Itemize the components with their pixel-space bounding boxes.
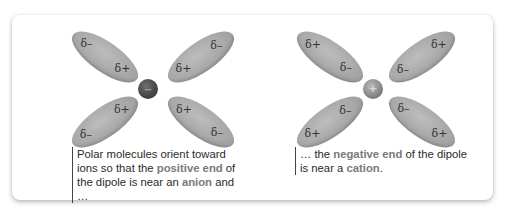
caption-highlight-anion: anion [182,176,212,188]
dipole-outer-charge: δ– [211,127,223,138]
dipole-inner-charge: δ+ [176,104,192,115]
dipole-inner-charge: δ+ [115,63,131,74]
anion-charge: – [144,81,151,96]
anion-icon: – [138,79,158,99]
dipole-inner-charge: δ– [339,105,351,116]
dipole-top-left: δ– δ+ [64,22,145,91]
cation-charge: + [369,81,377,96]
anion-caption: Polar molecules orient toward ions so th… [72,147,247,203]
caption-text: . [380,162,383,174]
dipole-inner-charge: δ– [397,64,409,75]
dipole-outer-charge: δ+ [432,128,448,139]
dipole-inner-charge: δ– [340,62,352,73]
cation-caption: … the negative end of the dipole is near… [295,147,470,175]
dipole-top-right: δ+ δ– [160,22,241,91]
dipole-outer-charge: δ+ [431,39,447,50]
caption-highlight-negative-end: negative end [333,148,402,160]
figure-card: δ– δ+ δ+ δ– δ– δ+ δ+ δ– – Polar molecule… [12,15,493,200]
cation-icon: + [363,79,383,99]
dipole-inner-charge: δ– [397,103,409,114]
cation-panel: δ+ δ– δ– δ+ δ+ δ– δ– δ+ + … the negative… [237,15,477,200]
dipole-outer-charge: δ+ [305,128,321,139]
dipole-outer-charge: δ+ [305,39,321,50]
dipole-top-right: δ– δ+ [381,22,462,91]
dipole-top-left: δ+ δ– [289,22,370,91]
dipole-inner-charge: δ+ [176,63,192,74]
dipole-outer-charge: δ– [210,40,222,51]
dipole-outer-charge: δ– [80,38,92,49]
caption-highlight-positive-end: positive end [157,162,223,174]
dipole-inner-charge: δ+ [114,104,130,115]
caption-text: … the [300,148,333,160]
dipole-outer-charge: δ– [80,129,92,140]
anion-panel: δ– δ+ δ+ δ– δ– δ+ δ+ δ– – Polar molecule… [12,15,252,200]
caption-highlight-cation: cation [346,162,379,174]
